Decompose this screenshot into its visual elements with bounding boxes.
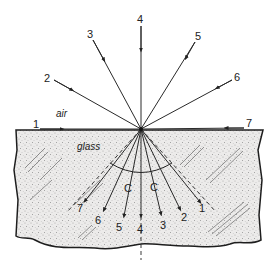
refracted-label-3: 3	[160, 219, 166, 231]
refracted-label-5: 5	[116, 221, 122, 233]
incident-label-7: 7	[246, 117, 252, 129]
incident-label-5: 5	[195, 30, 201, 42]
refracted-label-1: 1	[199, 202, 205, 214]
incident-label-4: 4	[137, 13, 143, 25]
refraction-diagram: air glass 1 2 3 4 5 6 7 7 6 5 4 3 2 1 C …	[0, 0, 277, 267]
incident-label-3: 3	[87, 28, 93, 40]
incident-rays	[40, 26, 244, 129]
incident-ray-5	[141, 42, 195, 129]
incidence-point	[139, 127, 143, 131]
incident-label-2: 2	[44, 72, 50, 84]
refracted-label-4: 4	[137, 223, 143, 235]
refracted-label-6: 6	[95, 214, 101, 226]
refracted-label-7: 7	[77, 202, 83, 214]
critical-angle-mark-left: C	[124, 182, 132, 194]
label-glass: glass	[77, 141, 100, 152]
incident-label-1: 1	[33, 118, 39, 130]
critical-angle-mark-right: C	[150, 181, 158, 193]
refracted-label-2: 2	[181, 211, 187, 223]
label-air: air	[56, 108, 68, 119]
incident-label-6: 6	[234, 71, 240, 83]
